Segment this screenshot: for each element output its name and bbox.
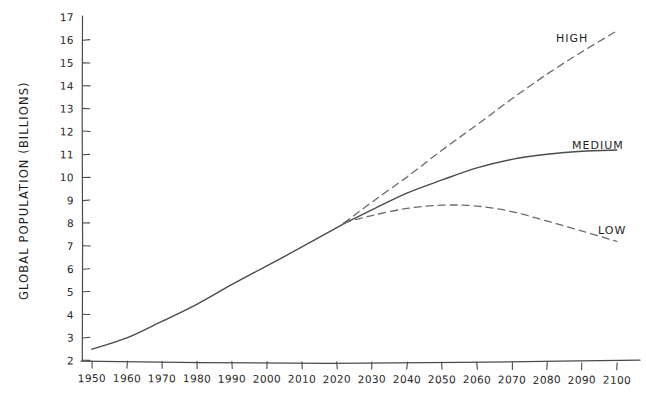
x-tick-label: 2060 [463, 373, 492, 386]
x-tick-label: 2010 [288, 372, 317, 385]
y-tick-mark [83, 40, 90, 41]
x-tick-label: 2000 [253, 372, 281, 384]
y-tick-label: 12 [60, 125, 74, 137]
y-tick-label: 15 [60, 57, 74, 69]
y-tick-marks [83, 40, 90, 361]
y-tick-label: 8 [67, 217, 74, 229]
y-tick-label: 14 [60, 80, 74, 92]
series-label-low: LOW [598, 224, 626, 237]
y-tick-label: 16 [60, 34, 74, 46]
x-tick-label: 1950 [78, 372, 106, 384]
y-tick-label: 13 [60, 102, 74, 114]
x-tick-mark [407, 362, 408, 369]
x-tick-label: 2030 [358, 373, 387, 386]
x-tick-label: 1980 [183, 372, 212, 385]
population-projection-chart: 171615141312111098765432 195019601970198… [0, 0, 646, 411]
series-line-high [344, 31, 616, 223]
x-tick-label: 2090 [568, 373, 597, 386]
y-tick-labels: 171615141312111098765432 [60, 11, 74, 367]
y-tick-mark [83, 337, 90, 338]
x-tick-mark [337, 362, 338, 369]
series-line-low [344, 205, 617, 241]
series-lines [92, 31, 617, 349]
y-tick-label: 2 [67, 354, 74, 366]
y-tick-label: 6 [67, 263, 74, 275]
y-tick-label: 5 [67, 286, 74, 298]
y-tick-label: 9 [67, 194, 74, 206]
x-tick-label: 1990 [218, 372, 246, 384]
y-tick-label: 7 [67, 240, 74, 252]
x-tick-label: 2080 [533, 373, 562, 386]
x-tick-labels: 1950196019701980199020002010202020302040… [78, 372, 632, 386]
y-tick-label: 4 [67, 309, 74, 321]
series-line-historical [92, 223, 344, 349]
y-tick-mark [83, 200, 90, 201]
x-axis-line [81, 360, 640, 363]
x-tick-label: 1970 [148, 372, 176, 384]
y-axis-title: GLOBAL POPULATION (BILLIONS) [17, 81, 31, 300]
series-label-medium: MEDIUM [572, 139, 624, 152]
x-tick-label: 2070 [498, 373, 527, 386]
x-tick-label: 2020 [323, 373, 352, 386]
chart-canvas: 171615141312111098765432 195019601970198… [0, 0, 646, 411]
y-tick-label: 3 [67, 332, 74, 344]
x-tick-label: 1960 [113, 372, 142, 385]
y-tick-label: 11 [60, 148, 74, 160]
x-tick-label: 2100 [603, 374, 631, 386]
series-label-high: HIGH [556, 32, 588, 45]
y-tick-mark [83, 269, 90, 270]
x-tick-label: 2040 [393, 373, 421, 385]
x-tick-label: 2050 [428, 373, 456, 385]
x-tick-mark [477, 362, 478, 369]
y-tick-label: 10 [60, 171, 74, 183]
y-tick-label: 17 [60, 11, 74, 23]
